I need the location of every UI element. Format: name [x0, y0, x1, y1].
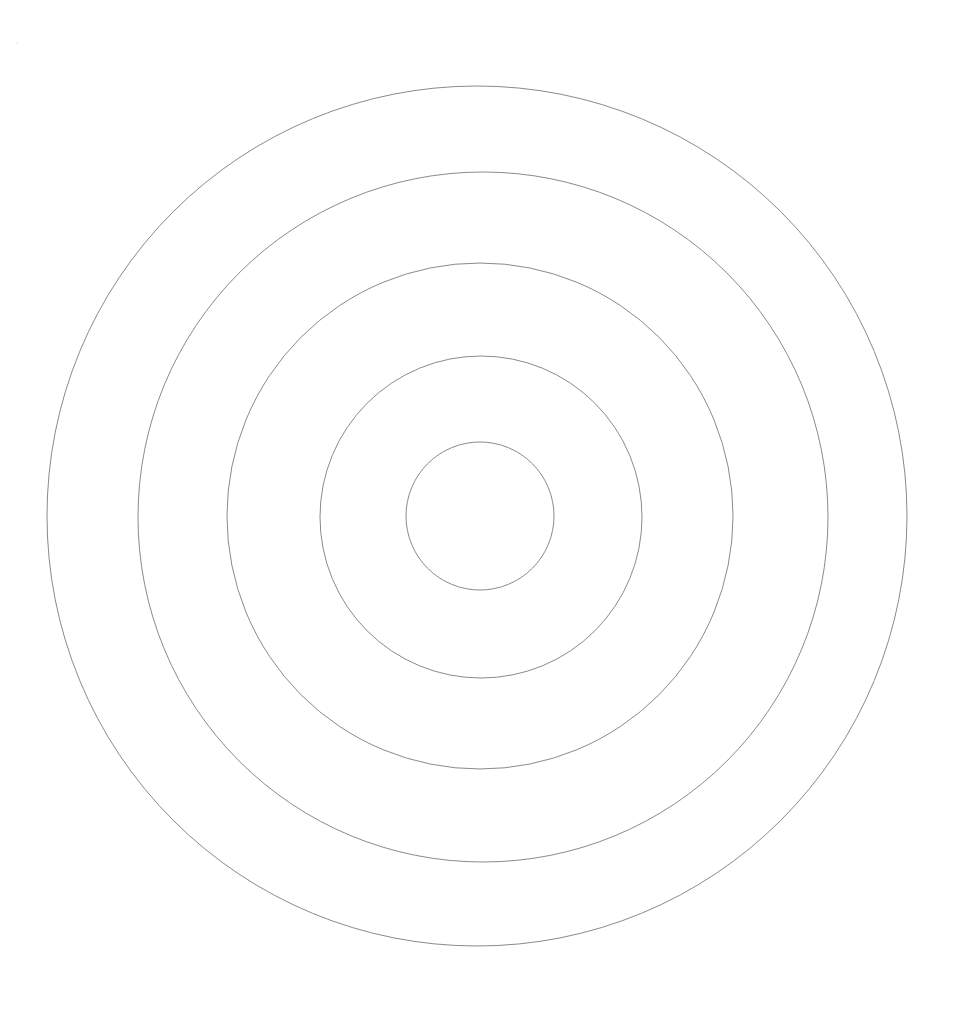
- concentric-circles-figure: [0, 0, 955, 1013]
- canvas-root: [0, 0, 955, 1013]
- ring-1-innermost-circle: [406, 442, 554, 590]
- ring-2-circle: [320, 356, 642, 678]
- ring-5-outermost-circle: [47, 86, 907, 946]
- ring-4-circle: [138, 172, 828, 862]
- background-speck: [16, 42, 18, 44]
- ring-3-circle: [227, 263, 733, 769]
